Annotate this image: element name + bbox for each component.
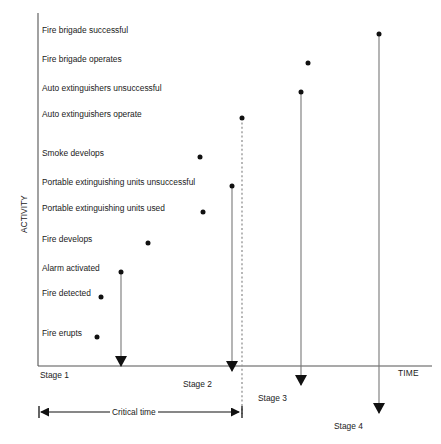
event-label-fire-develops: Fire develops [42,235,92,243]
data-point-portable-units-used [201,210,206,215]
stage-label-1: Stage 1 [40,371,69,379]
data-point-fire-brigade-operates [306,61,311,66]
axes-group [38,13,432,366]
data-point-fire-detected [99,295,104,300]
event-label-auto-extinguishers-operate: Auto extinguishers operate [42,110,142,118]
data-point-auto-extinguishers-unsuccessful [299,90,304,95]
event-label-fire-brigade-operates: Fire brigade operates [42,55,122,63]
event-label-auto-extinguishers-unsuccessful: Auto extinguishers unsuccessful [42,84,162,92]
event-label-alarm-activated: Alarm activated [42,264,100,272]
critical-time-label: Critical time [110,408,158,416]
data-point-fire-brigade-successful [377,32,382,37]
y-axis-title: ACTIVITY [20,195,28,233]
data-point-fire-erupts [95,335,100,340]
data-point-smoke-develops [198,155,203,160]
stage-label-4: Stage 4 [334,422,363,430]
data-point-portable-units-unsuccessful [230,184,235,189]
stage-label-2: Stage 2 [183,380,212,388]
stage-arrows-group [121,366,379,413]
event-label-fire-brigade-successful: Fire brigade successful [42,26,128,34]
event-label-portable-units-unsuccessful: Portable extinguishing units unsuccessfu… [42,178,195,186]
event-label-fire-detected: Fire detected [42,289,91,297]
data-point-auto-extinguishers-operate [240,116,245,121]
event-label-smoke-develops: Smoke develops [42,149,104,157]
data-point-fire-develops [146,241,151,246]
data-point-alarm-activated [119,270,124,275]
event-label-fire-erupts: Fire erupts [42,329,82,337]
stage-label-3: Stage 3 [258,394,287,402]
event-label-portable-units-used: Portable extinguishing units used [42,204,165,212]
fire-growth-stages-diagram: ACTIVITY TIME Fire brigade successful Fi… [0,0,441,444]
x-axis-title: TIME [398,369,419,377]
